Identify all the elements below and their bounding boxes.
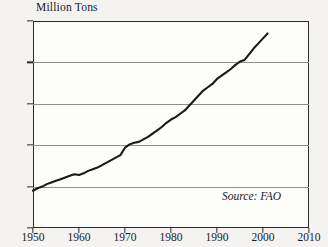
y-tick-mark (27, 103, 33, 104)
y-tick-mark (27, 145, 33, 146)
gridline (33, 187, 309, 188)
x-tick-mark (308, 228, 309, 233)
chart-container: Million Tons 050100150200250 19501960197… (0, 0, 328, 247)
gridline (33, 104, 309, 105)
x-tick-mark (216, 228, 217, 233)
y-tick-mark (27, 20, 33, 21)
y-tick-mark (27, 62, 33, 63)
x-tick-mark (170, 228, 171, 233)
source-annotation: Source: FAO (222, 190, 281, 202)
x-tick-mark (32, 228, 33, 233)
y-axis-title: Million Tons (36, 1, 98, 13)
gridline (33, 145, 309, 146)
y-tick-mark (27, 186, 33, 187)
x-tick-mark (262, 228, 263, 233)
x-tick-mark (124, 228, 125, 233)
gridline (33, 62, 309, 63)
x-tick-mark (78, 228, 79, 233)
